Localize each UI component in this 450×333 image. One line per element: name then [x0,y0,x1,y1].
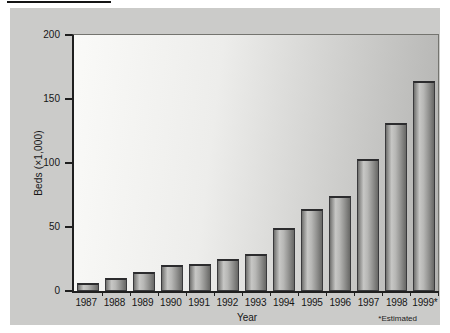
y-tick-50 [65,226,72,228]
bar-1988 [105,278,127,291]
bar-1998 [385,123,407,291]
bar-1996 [329,196,351,291]
chart-panel: Beds (×1,000) 050100150200 1987198819891… [10,8,440,325]
y-tick-label-100: 100 [26,158,60,168]
x-tick-10 [354,291,355,296]
x-category-label-1993: 1993 [241,297,269,308]
y-tick-label-50: 50 [26,222,60,232]
x-category-label-1995: 1995 [298,297,326,308]
x-tick-8 [298,291,299,296]
x-tick-13 [438,291,439,296]
bar-1992 [217,259,239,291]
bar-1991 [189,264,211,291]
y-tick-label-0: 0 [26,286,60,296]
x-tick-1 [102,291,103,296]
estimated-footnote: *Estimated [378,314,417,323]
y-tick-100 [65,162,72,164]
bar-1987 [77,283,99,291]
page-top-rule [7,1,111,3]
x-category-label-1999: 1999* [411,297,439,308]
y-tick-200 [65,34,72,36]
x-category-label-1998: 1998 [383,297,411,308]
x-tick-12 [410,291,411,296]
x-category-label-1990: 1990 [157,297,185,308]
y-tick-label-150: 150 [26,94,60,104]
bar-1993 [245,254,267,291]
y-tick-150 [65,98,72,100]
x-tick-2 [130,291,131,296]
x-category-label-1988: 1988 [100,297,128,308]
bar-1997 [357,159,379,291]
x-tick-4 [186,291,187,296]
x-category-label-1987: 1987 [72,297,100,308]
bar-1999 [413,81,435,291]
bar-1990 [161,265,183,291]
bar-1995 [301,209,323,291]
plot-area: 050100150200 [72,34,439,293]
x-tick-3 [158,291,159,296]
y-tick-label-200: 200 [26,30,60,40]
x-tick-6 [242,291,243,296]
x-tick-5 [214,291,215,296]
x-category-label-1991: 1991 [185,297,213,308]
x-tick-9 [326,291,327,296]
x-category-label-1996: 1996 [326,297,354,308]
x-category-label-1997: 1997 [354,297,382,308]
scanned-figure-page: { "chart_data": { "type": "bar", "title"… [0,0,450,333]
y-tick-0 [65,290,72,292]
x-tick-7 [270,291,271,296]
x-axis-category-labels: 1987198819891990199119921993199419951996… [72,297,439,308]
bar-1989 [133,272,155,291]
x-axis-title: Year [72,312,422,323]
bar-1994 [273,228,295,291]
x-category-label-1989: 1989 [128,297,156,308]
x-category-label-1992: 1992 [213,297,241,308]
x-category-label-1994: 1994 [270,297,298,308]
x-tick-11 [382,291,383,296]
